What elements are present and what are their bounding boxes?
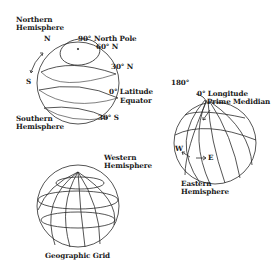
e-label: E: [208, 154, 213, 162]
n-label: N: [44, 35, 50, 43]
geographic-grid-globe: [37, 165, 119, 247]
lat-30n-label: 30° N: [111, 63, 133, 71]
equator-deg-label: 0° Latitude: [109, 88, 153, 96]
northern-hemisphere-line2: Hemisphere: [16, 24, 64, 32]
diagram-canvas: [0, 0, 278, 264]
prime-meridian-label: Prime Medidian: [207, 98, 270, 106]
longitude-globe: [174, 94, 256, 184]
north-pole-deg-label: 90°: [78, 35, 91, 43]
s-label: S: [26, 78, 31, 86]
western-hemisphere-line2: Hemisphere: [104, 162, 152, 170]
northern-hemisphere-label: Northern Hemisphere: [16, 16, 64, 32]
equator-label: Equator: [120, 97, 152, 105]
eastern-hemisphere-line2: Hemisphere: [181, 188, 229, 196]
western-hemisphere-label: Western Hemisphere: [104, 154, 152, 170]
north-south-arrow-icon: [30, 53, 43, 73]
geographic-grid-caption: Geographic Grid: [45, 252, 110, 260]
w-label: W: [175, 145, 183, 153]
southern-hemisphere-label: Southern Hemisphere: [16, 115, 64, 131]
southern-hemisphere-line2: Hemisphere: [16, 123, 64, 131]
lat-30s-label: 30° S: [98, 114, 119, 122]
lon-180-label: 180°: [171, 79, 189, 87]
eastern-hemisphere-label: Eastern Hemisphere: [181, 180, 229, 196]
lat-60n-label: 60° N: [96, 43, 118, 51]
